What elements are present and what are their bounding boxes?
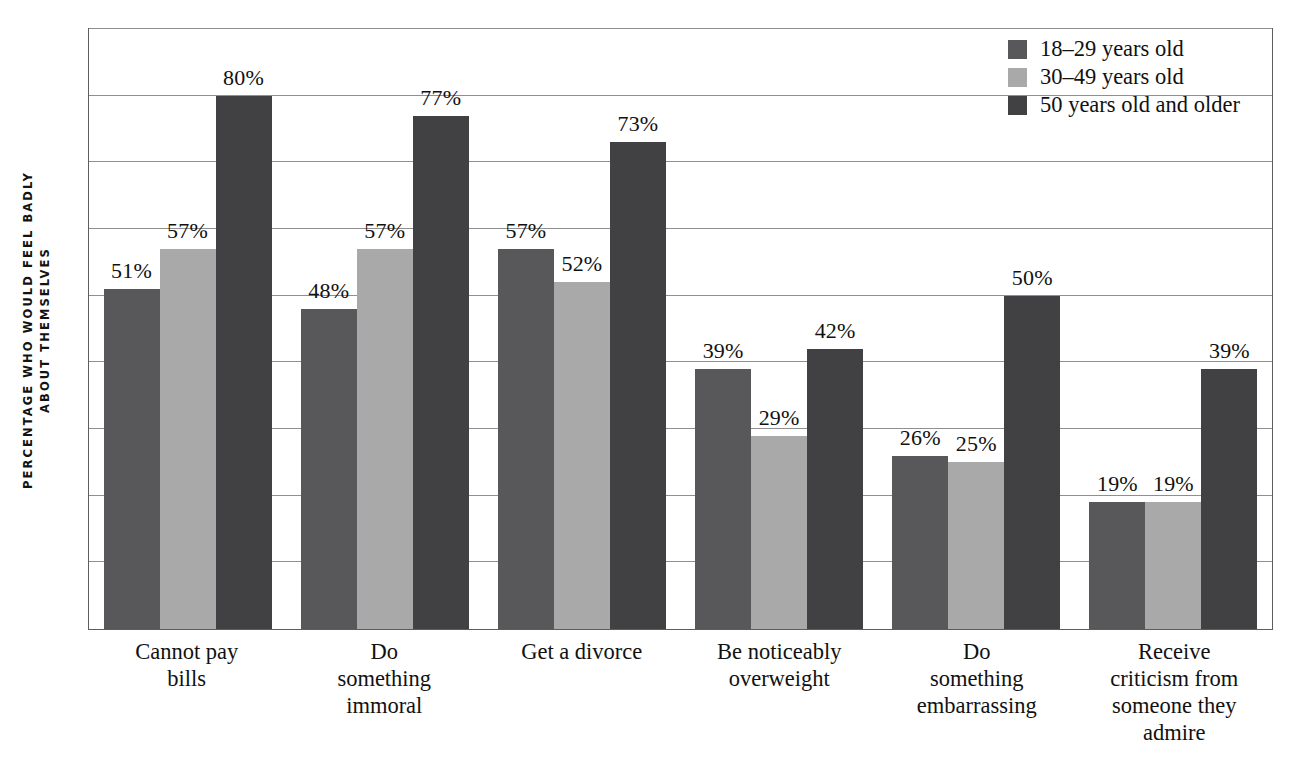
x-axis-label-line: embarrassing	[882, 692, 1072, 719]
x-axis-label: Receivecriticism fromsomeone theyadmire	[1076, 638, 1274, 758]
x-axis-label-line: Do	[882, 638, 1072, 665]
legend-swatch-icon	[1008, 40, 1027, 59]
bar-slot: 80%	[216, 29, 272, 629]
x-axis-label: Dosomethingembarrassing	[878, 638, 1076, 758]
bar-slot: 39%	[1201, 29, 1257, 629]
x-axis-label-line: Cannot pay	[92, 638, 282, 665]
bar[interactable]: 39%	[695, 369, 751, 629]
bar-value-label: 80%	[223, 65, 264, 91]
bar-group: 48%57%77%	[286, 29, 483, 629]
x-axis-label-line: Receive	[1080, 638, 1270, 665]
bar[interactable]: 57%	[357, 249, 413, 629]
bar[interactable]: 25%	[948, 462, 1004, 629]
bar-value-label: 26%	[900, 425, 941, 451]
legend-swatch-icon	[1008, 68, 1027, 87]
bar[interactable]: 52%	[554, 282, 610, 629]
x-axis-label-line: immoral	[290, 692, 480, 719]
bar-slot: 57%	[357, 29, 413, 629]
bar-groups: 51%57%80%48%57%77%57%52%73%39%29%42%26%2…	[89, 29, 1272, 629]
bar-slot: 42%	[807, 29, 863, 629]
x-axis-label: Cannot paybills	[88, 638, 286, 758]
bar[interactable]: 29%	[751, 436, 807, 629]
bar[interactable]: 77%	[413, 116, 469, 629]
bar-slot: 29%	[751, 29, 807, 629]
x-axis-label-line: someone they	[1080, 692, 1270, 719]
bar-group: 51%57%80%	[89, 29, 286, 629]
bar-slot: 26%	[892, 29, 948, 629]
bar-slot: 51%	[104, 29, 160, 629]
y-axis-title-line-2: ABOUT THEMSELVES	[37, 247, 54, 413]
bar-slot: 48%	[301, 29, 357, 629]
x-axis-label-line: criticism from	[1080, 665, 1270, 692]
bar-value-label: 39%	[703, 338, 744, 364]
bar-slot: 39%	[695, 29, 751, 629]
x-axis-label: Dosomethingimmoral	[286, 638, 484, 758]
x-axis-label: Get a divorce	[483, 638, 681, 758]
bar-slot: 57%	[160, 29, 216, 629]
bar[interactable]: 57%	[160, 249, 216, 629]
bar[interactable]: 57%	[498, 249, 554, 629]
legend-item-label: 30–49 years old	[1040, 64, 1184, 90]
x-axis-label-line: Be noticeably	[685, 638, 875, 665]
bar-slot: 25%	[948, 29, 1004, 629]
bar-group: 26%25%50%	[878, 29, 1075, 629]
bar-chart: PERCENTAGE WHO WOULD FEEL BADLY ABOUT TH…	[0, 0, 1307, 771]
x-axis-label-line: bills	[92, 665, 282, 692]
bar[interactable]: 39%	[1201, 369, 1257, 629]
bar-slot: 19%	[1089, 29, 1145, 629]
bar-value-label: 57%	[364, 218, 405, 244]
bar-value-label: 51%	[111, 258, 152, 284]
bar-slot: 77%	[413, 29, 469, 629]
bar[interactable]: 50%	[1004, 296, 1060, 629]
bar-slot: 52%	[554, 29, 610, 629]
bar-value-label: 73%	[617, 111, 658, 137]
bar-value-label: 48%	[308, 278, 349, 304]
bar-value-label: 25%	[956, 431, 997, 457]
bar[interactable]: 19%	[1145, 502, 1201, 629]
legend: 18–29 years old30–49 years old50 years o…	[1008, 36, 1240, 118]
bar-group: 19%19%39%	[1075, 29, 1272, 629]
x-axis-label-line: something	[882, 665, 1072, 692]
plot-area: 51%57%80%48%57%77%57%52%73%39%29%42%26%2…	[88, 28, 1273, 630]
legend-item[interactable]: 30–49 years old	[1008, 64, 1240, 90]
bar[interactable]: 51%	[104, 289, 160, 629]
bar-value-label: 57%	[167, 218, 208, 244]
bar-slot: 57%	[498, 29, 554, 629]
bar-group: 39%29%42%	[681, 29, 878, 629]
x-axis-label-line: overweight	[685, 665, 875, 692]
bar-group: 57%52%73%	[483, 29, 680, 629]
y-axis-title-line-1: PERCENTAGE WHO WOULD FEEL BADLY	[20, 171, 37, 489]
bar-value-label: 52%	[561, 251, 602, 277]
bar-slot: 19%	[1145, 29, 1201, 629]
bar-value-label: 19%	[1097, 471, 1138, 497]
bar[interactable]: 19%	[1089, 502, 1145, 629]
x-axis-label-line: Do	[290, 638, 480, 665]
x-axis-label: Be noticeablyoverweight	[681, 638, 879, 758]
x-axis-label-line: Get a divorce	[487, 638, 677, 665]
bar-value-label: 57%	[505, 218, 546, 244]
bar[interactable]: 73%	[610, 142, 666, 629]
legend-item-label: 18–29 years old	[1040, 36, 1184, 62]
bar[interactable]: 42%	[807, 349, 863, 629]
legend-item-label: 50 years old and older	[1040, 92, 1240, 118]
bar-slot: 50%	[1004, 29, 1060, 629]
bar[interactable]: 80%	[216, 96, 272, 629]
x-axis-labels: Cannot paybillsDosomethingimmoralGet a d…	[88, 638, 1273, 758]
legend-swatch-icon	[1008, 96, 1027, 115]
bar-value-label: 39%	[1209, 338, 1250, 364]
bar-slot: 73%	[610, 29, 666, 629]
bar-value-label: 77%	[420, 85, 461, 111]
y-axis-title: PERCENTAGE WHO WOULD FEEL BADLY ABOUT TH…	[17, 30, 57, 630]
bar-value-label: 42%	[815, 318, 856, 344]
x-axis-label-line: admire	[1080, 719, 1270, 746]
bar-value-label: 19%	[1153, 471, 1194, 497]
x-axis-label-line: something	[290, 665, 480, 692]
bar[interactable]: 48%	[301, 309, 357, 629]
bar[interactable]: 26%	[892, 456, 948, 629]
bar-value-label: 29%	[759, 405, 800, 431]
legend-item[interactable]: 50 years old and older	[1008, 92, 1240, 118]
bar-value-label: 50%	[1012, 265, 1053, 291]
legend-item[interactable]: 18–29 years old	[1008, 36, 1240, 62]
